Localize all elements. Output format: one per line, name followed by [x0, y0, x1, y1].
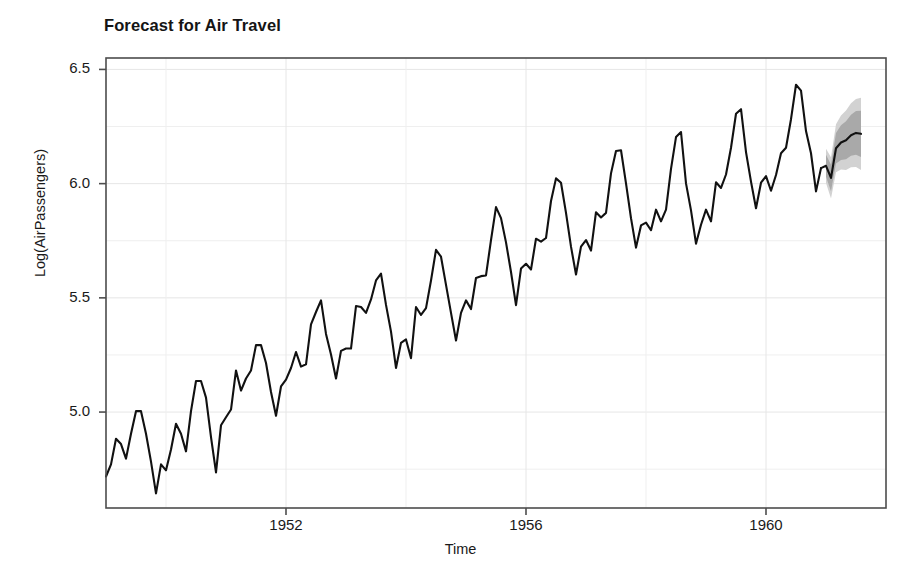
x-tick-label: 1960 [731, 516, 801, 533]
x-tick-label: 1956 [491, 516, 561, 533]
x-axis-tick-labels: 195219561960 [0, 0, 921, 585]
chart-figure: Forecast for Air Travel Log(AirPassenger… [0, 0, 921, 585]
x-tick-label: 1952 [251, 516, 321, 533]
